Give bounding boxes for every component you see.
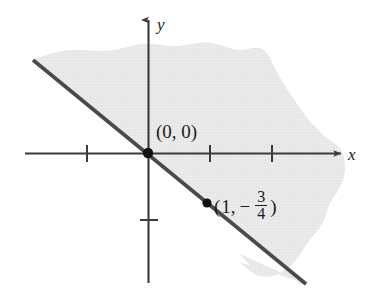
paren-close: ) [270,197,276,216]
graph-canvas [0,0,370,295]
x-axis-label: x [348,146,356,163]
origin-point-dot [143,148,153,158]
fraction-numerator: 3 [255,189,267,205]
origin-label-text: (0, 0) [156,121,197,142]
paren-open: ( [214,197,220,216]
origin-point-label: (0, 0) [156,122,197,141]
fraction-three-quarters: 3 4 [255,189,267,223]
point-one-neg-three-quarters-label: ( 1, − 3 4 ) [214,190,277,224]
inequality-graph-figure: (0, 0) ( 1, − 3 4 ) x y [0,0,370,295]
fraction-denominator: 4 [255,205,267,222]
y-axis-label: y [157,16,165,33]
shaded-region-outline [33,43,343,284]
point-x-value: 1, [221,197,235,216]
point-one-neg-three-quarters-dot [202,198,211,207]
minus-sign: − [240,197,251,216]
